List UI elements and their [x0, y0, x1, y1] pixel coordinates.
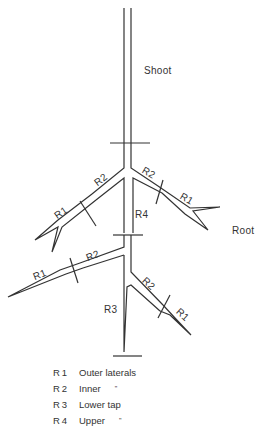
- legend-code: R2: [53, 381, 79, 397]
- shoot-label: Shoot: [144, 65, 172, 76]
- legend-row: R4 Upper ": [53, 413, 150, 429]
- legend: R1 Outer laterals R2 Inner " R3 Lower ta…: [53, 365, 150, 429]
- legend-row: R3 Lower tap: [53, 397, 150, 413]
- upper-left-r1-branch: [35, 194, 96, 252]
- r3-label: R3: [104, 304, 117, 315]
- legend-desc: Lower tap: [79, 397, 121, 413]
- legend-desc: Outer laterals: [79, 365, 136, 381]
- legend-desc: Inner: [79, 381, 101, 397]
- legend-code: R3: [53, 397, 79, 413]
- shoot-stem: [124, 8, 131, 148]
- legend-ditto: ": [119, 413, 122, 429]
- legend-code: R1: [53, 365, 79, 381]
- legend-desc: Upper: [79, 413, 105, 429]
- legend-code: R4: [53, 413, 79, 429]
- root-label: Root: [232, 225, 254, 236]
- legend-row: R1 Outer laterals: [53, 365, 150, 381]
- upper-junction: [92, 148, 162, 233]
- r4-label: R4: [135, 209, 148, 220]
- legend-row: R2 Inner ": [53, 381, 150, 397]
- legend-ditto: ": [115, 381, 118, 397]
